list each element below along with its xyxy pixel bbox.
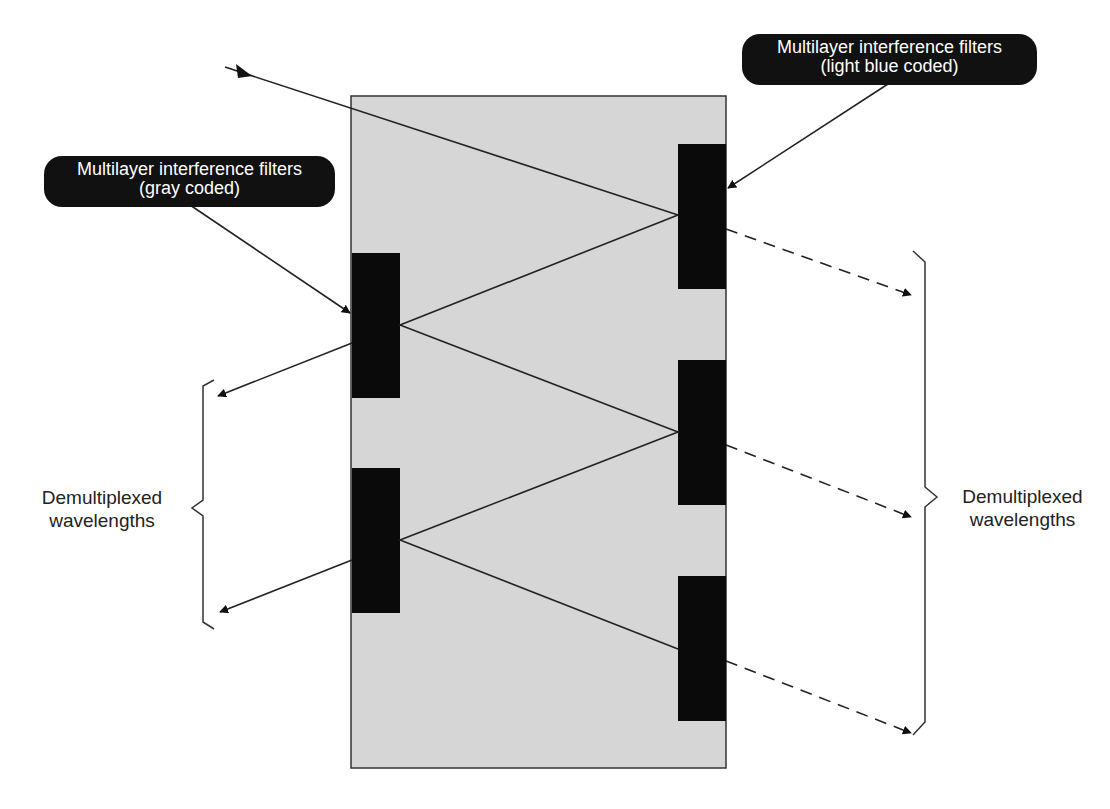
right-brace-icon (913, 251, 937, 735)
demultiplexer-diagram (0, 0, 1110, 809)
left-output-arrow-1 (218, 343, 352, 396)
filter-right-1 (678, 144, 726, 289)
label-line2: wavelengths (12, 509, 192, 532)
right-output-arrow-3 (726, 661, 911, 733)
glass-substrate (351, 96, 726, 768)
callout-arrow-left (190, 205, 350, 313)
right-output-arrow-2 (726, 445, 911, 517)
filter-right-3 (678, 576, 726, 721)
callout-line1: Multilayer interference filters (58, 160, 321, 179)
callout-arrow-right (728, 84, 888, 188)
callout-gray-filters: Multilayer interference filters (gray co… (44, 156, 335, 207)
right-output-arrow-1 (726, 229, 911, 295)
filter-right-2 (678, 360, 726, 505)
callout-line2: (light blue coded) (756, 57, 1023, 76)
left-brace-icon (192, 380, 214, 629)
callout-line1: Multilayer interference filters (756, 38, 1023, 57)
callout-light-blue-filters: Multilayer interference filters (light b… (742, 34, 1037, 85)
incoming-arrowhead-icon (236, 64, 252, 78)
label-line1: Demultiplexed (940, 485, 1105, 508)
filter-left-1 (352, 253, 400, 398)
right-output-label: Demultiplexed wavelengths (940, 485, 1105, 531)
filter-left-2 (352, 468, 400, 613)
callout-line2: (gray coded) (58, 179, 321, 198)
label-line2: wavelengths (940, 508, 1105, 531)
left-output-label: Demultiplexed wavelengths (12, 486, 192, 532)
label-line1: Demultiplexed (12, 486, 192, 509)
left-output-arrow-2 (220, 560, 352, 612)
